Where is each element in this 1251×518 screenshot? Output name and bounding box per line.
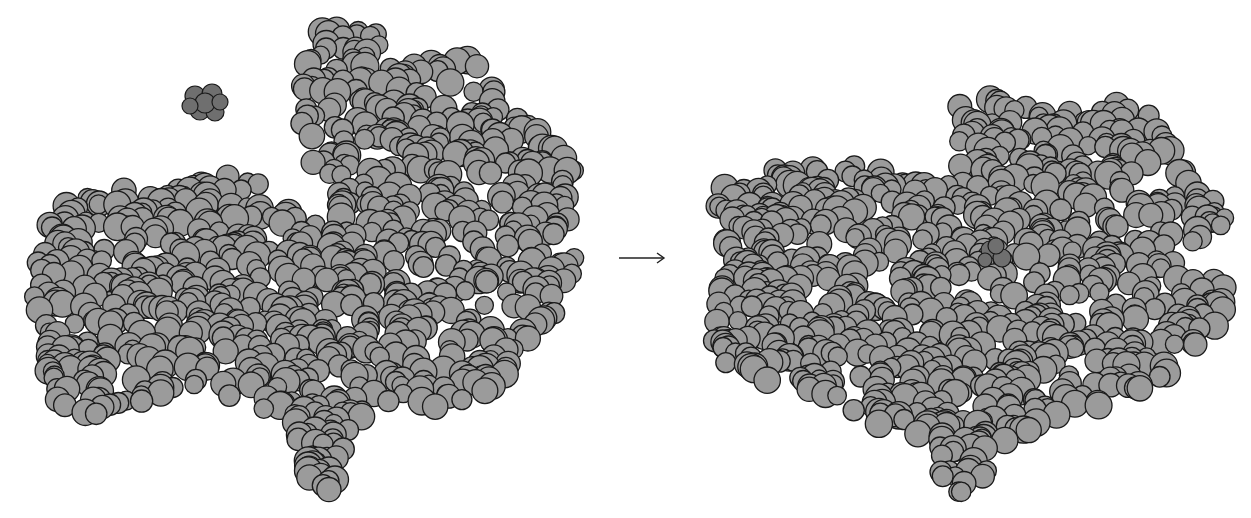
enzyme-before-binding (25, 17, 584, 502)
enzyme-atom (86, 403, 107, 424)
enzyme-atom (905, 421, 931, 447)
enzyme-atom (754, 367, 780, 393)
enzyme-atom (932, 466, 953, 487)
enzyme-atom (413, 257, 434, 278)
enzyme-atom (828, 386, 847, 405)
enzyme-atom (383, 251, 404, 272)
figure-canvas (0, 0, 1251, 518)
enzyme-atom (437, 69, 464, 96)
reaction-arrow-icon (619, 253, 664, 263)
enzyme-atom (472, 378, 498, 404)
enzyme-atom (219, 385, 240, 406)
enzyme-atom (952, 482, 971, 501)
enzyme-atom (492, 191, 514, 213)
enzyme-atom (865, 410, 892, 437)
enzyme-atom (476, 271, 498, 293)
enzyme-atom (1211, 216, 1230, 235)
enzyme-atom (456, 282, 474, 300)
enzyme-atom (254, 399, 273, 418)
substrate-atom (212, 94, 228, 110)
enzyme-atom (317, 478, 341, 502)
enzyme-atom (1106, 215, 1128, 237)
enzyme-atom (1085, 392, 1112, 419)
enzyme-atom (131, 390, 153, 412)
substrate-atom (182, 98, 198, 114)
enzyme-atom (1016, 418, 1041, 443)
enzyme-atom (479, 162, 501, 184)
enzyme-atom (475, 296, 493, 314)
enzyme-atom (1183, 232, 1202, 251)
enzyme-atom (452, 390, 472, 410)
enzyme-atom (543, 224, 564, 245)
enzyme-atom (1184, 333, 1207, 356)
enzyme-atom (716, 353, 736, 373)
enzyme-atom (423, 394, 448, 419)
enzyme-atom (1127, 376, 1152, 401)
enzyme-atom (843, 400, 864, 421)
substrate-atom (978, 253, 992, 267)
enzyme-atom (1165, 335, 1183, 353)
enzyme-atom (378, 391, 399, 412)
substrate-free (182, 84, 228, 121)
enzyme-after-binding (704, 86, 1236, 502)
substrate-atom (988, 238, 1004, 254)
enzyme-atom (185, 375, 203, 393)
enzyme-atom (299, 123, 324, 148)
enzyme-atom (1060, 286, 1079, 305)
enzyme-atom (465, 55, 488, 78)
